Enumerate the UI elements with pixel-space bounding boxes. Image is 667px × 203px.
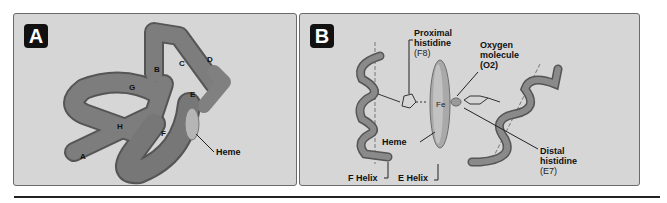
proximal-label-3: (F8) bbox=[414, 48, 431, 58]
distal-label-2: histidine bbox=[540, 156, 577, 166]
oxygen-label-3: (O2) bbox=[480, 60, 498, 70]
helix-label-e: E bbox=[190, 90, 196, 99]
oxygen-label-2: molecule bbox=[480, 50, 519, 60]
helix-label-d: D bbox=[207, 55, 213, 64]
distal-histidine-ring bbox=[464, 96, 500, 104]
helix-label-g: G bbox=[129, 83, 135, 92]
helix-label-a: A bbox=[80, 152, 86, 161]
helix-label-c: C bbox=[179, 59, 185, 68]
proximal-label-2: histidine bbox=[414, 38, 451, 48]
helix-label-b: B bbox=[154, 65, 160, 74]
distal-label-1: Distal bbox=[540, 146, 565, 156]
e-helix-label: E Helix bbox=[398, 173, 428, 183]
bottom-divider bbox=[14, 196, 660, 198]
oxygen-label-1: Oxygen bbox=[480, 40, 513, 50]
heme-label-a: Heme bbox=[216, 147, 241, 157]
panel-b-heme-pocket: B Proximal histidine (F8) Fe Heme Oxygen… bbox=[299, 13, 640, 186]
panel-a-myoglobin-tertiary: A Heme A B C D E F G H bbox=[13, 13, 297, 186]
helix-label-f: F bbox=[161, 129, 166, 138]
oxygen-molecule bbox=[451, 98, 461, 106]
heme-pocket-diagram: Proximal histidine (F8) Fe Heme Oxygen m… bbox=[300, 14, 641, 187]
myoglobin-tube-diagram: Heme A B C D E F G H bbox=[14, 14, 298, 187]
helix-label-h: H bbox=[117, 122, 123, 131]
iron-label: Fe bbox=[436, 100, 446, 109]
proximal-label-1: Proximal bbox=[414, 28, 452, 38]
distal-label-3: (E7) bbox=[540, 166, 557, 176]
proximal-histidine-ring bbox=[378, 94, 428, 108]
f-helix-label: F Helix bbox=[348, 173, 378, 183]
heme-label-b: Heme bbox=[382, 137, 407, 147]
